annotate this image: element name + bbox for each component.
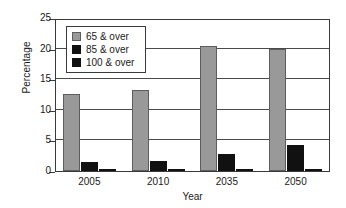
legend-swatch-icon xyxy=(72,45,81,54)
bar xyxy=(150,161,167,171)
bar xyxy=(269,49,286,171)
legend-swatch-icon xyxy=(72,58,81,67)
bar xyxy=(99,169,116,171)
bar xyxy=(305,169,322,171)
legend-item: 100 & over xyxy=(72,56,141,69)
y-axis-tick-label: 25 xyxy=(11,13,51,23)
legend: 65 & over85 & over100 & over xyxy=(66,26,146,73)
bar xyxy=(168,169,185,171)
x-axis-title: Year xyxy=(55,191,330,202)
x-axis-tick-label: 2010 xyxy=(123,176,193,187)
bar xyxy=(287,145,304,171)
legend-item: 65 & over xyxy=(72,30,141,43)
y-axis-tick-label: 5 xyxy=(11,135,51,145)
bar xyxy=(236,169,253,171)
bar xyxy=(218,154,235,171)
y-axis-tick-label: 10 xyxy=(11,105,51,115)
bar xyxy=(132,90,149,171)
x-axis-tick-label: 2050 xyxy=(261,176,331,187)
y-axis-tick-label: 15 xyxy=(11,74,51,84)
bar-group xyxy=(262,20,331,171)
legend-swatch-icon xyxy=(72,32,81,41)
bar xyxy=(200,46,217,171)
bar xyxy=(81,162,98,171)
bar xyxy=(63,94,80,171)
x-axis-tick-label: 2005 xyxy=(54,176,124,187)
legend-item: 85 & over xyxy=(72,43,141,56)
legend-label: 65 & over xyxy=(86,32,129,42)
y-axis-tick-label: 20 xyxy=(11,44,51,54)
x-axis-tick-label: 2035 xyxy=(192,176,262,187)
legend-label: 100 & over xyxy=(86,58,134,68)
bar-group xyxy=(194,20,263,171)
bar-chart-figure: Percentage 0510152025 2005201020352050 Y… xyxy=(0,0,346,208)
y-axis-tick-label: 0 xyxy=(11,166,51,176)
legend-label: 85 & over xyxy=(86,45,129,55)
